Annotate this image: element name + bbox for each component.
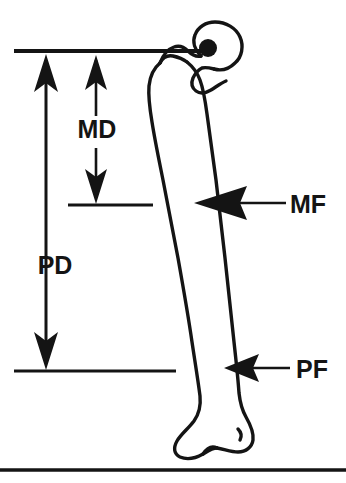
mf-label: MF bbox=[290, 190, 326, 218]
md-measurement: MD bbox=[78, 55, 117, 204]
md-label: MD bbox=[78, 115, 117, 143]
femur-diagram-figure: PD MD MF PF bbox=[0, 0, 346, 483]
femoral-head-center-marker bbox=[199, 39, 217, 57]
pf-callout: PF bbox=[224, 354, 328, 383]
pf-label: PF bbox=[296, 355, 328, 383]
femur-diagram-canvas: PD MD MF PF bbox=[0, 0, 346, 483]
femur-bone-outline bbox=[149, 22, 253, 458]
mf-callout: MF bbox=[194, 186, 326, 220]
pd-measurement: PD bbox=[34, 54, 72, 370]
pd-label: PD bbox=[38, 251, 73, 279]
